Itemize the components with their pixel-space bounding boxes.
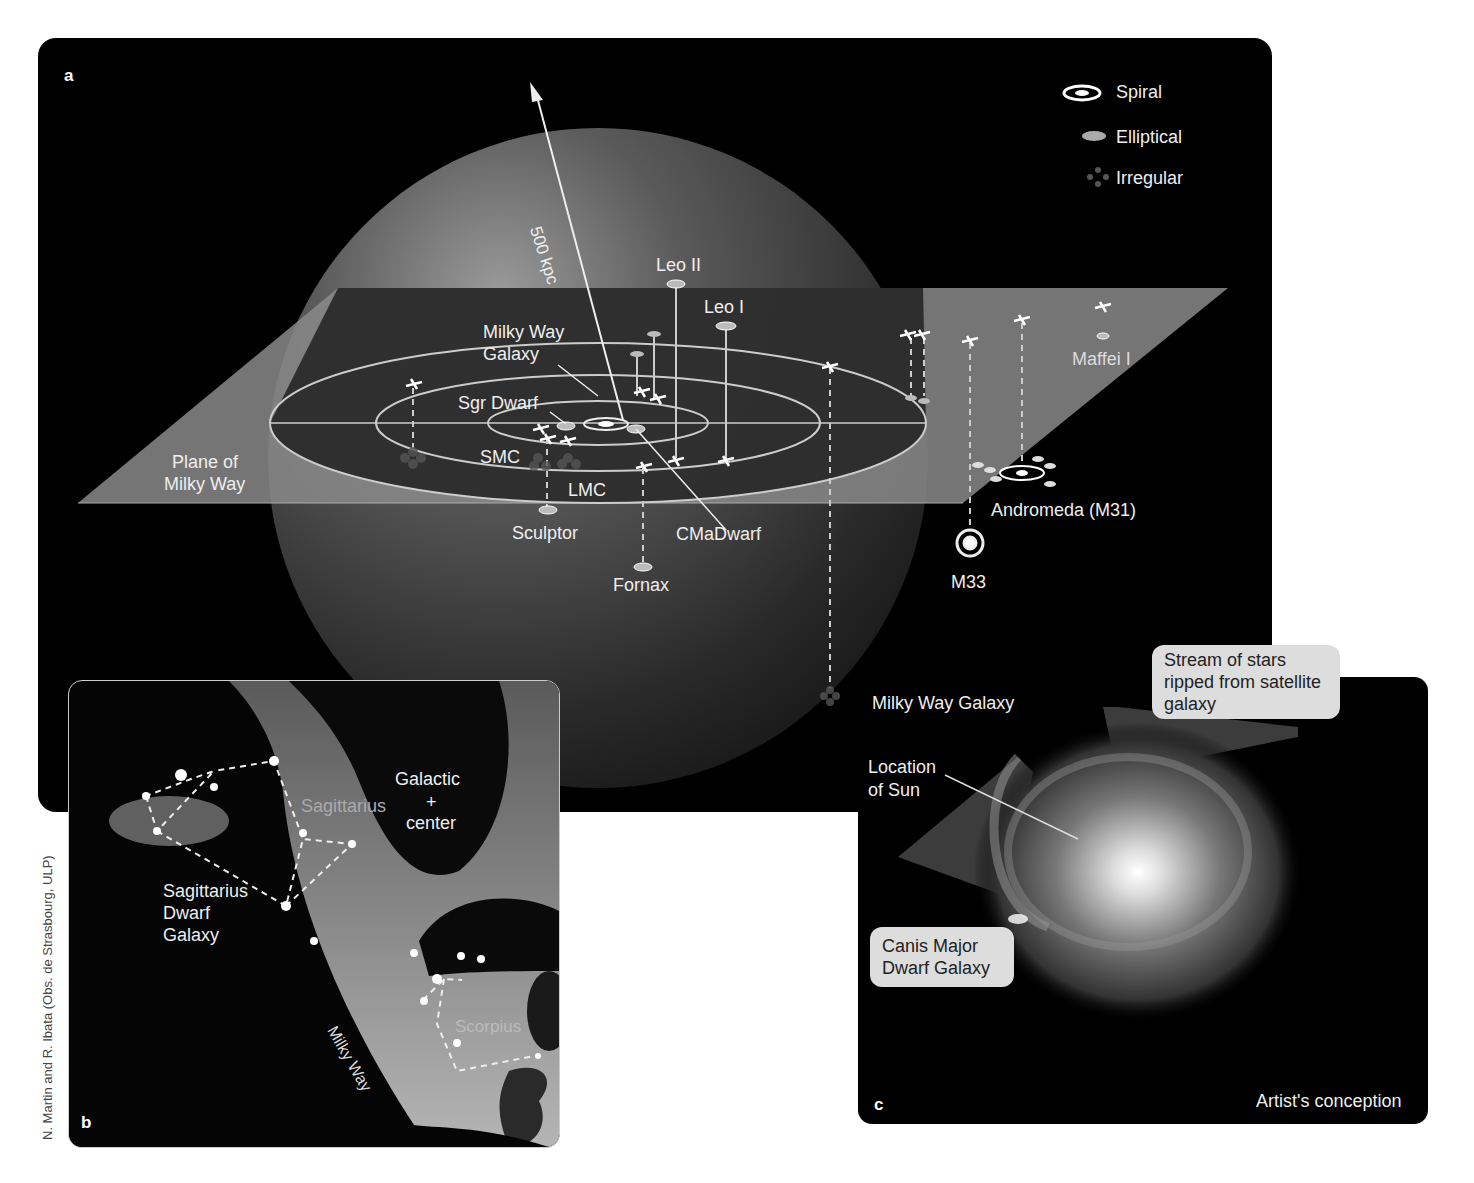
label-smc: SMC [480,447,520,468]
label-leo-i: Leo I [704,297,744,318]
label-location-of-sun-1: Location [868,757,936,778]
image-credit: N. Martin and R. Ibata (Obs. de Strasbou… [40,855,55,1140]
label-sculptor: Sculptor [512,523,578,544]
legend-spiral-label: Spiral [1116,82,1162,103]
callout-cma-line-1: Canis Major [882,935,1002,957]
callout-stream-line-2: ripped from satellite [1164,671,1328,693]
label-sgr-dwarf-2: Dwarf [163,903,210,924]
legend-irregular-label: Irregular [1116,168,1183,189]
legend-elliptical-label: Elliptical [1116,127,1182,148]
sky-illustration [69,681,559,1147]
label-scorpius: Scorpius [455,1017,521,1037]
label-galactic: Galactic [395,769,460,790]
label-milky-way-1: Milky Way [483,322,564,343]
label-lmc: LMC [568,480,606,501]
label-andromeda: Andromeda (M31) [991,500,1136,521]
callout-stream-line-3: galaxy [1164,693,1328,715]
label-galactic-plus: + [426,792,437,813]
callout-cma-line-2: Dwarf Galaxy [882,957,1002,979]
label-leo-ii: Leo II [656,255,701,276]
label-center: center [406,813,456,834]
label-m33: M33 [951,572,986,593]
panel-c-title: Milky Way Galaxy [872,693,1014,714]
plane-label-2: Milky Way [164,474,245,495]
milky-way-artist-illustration [858,677,1428,1124]
label-sgr-dwarf-1: Sagittarius [163,881,248,902]
legend-irregular-icon [1087,167,1109,187]
m33-spiral-icon [957,530,983,556]
caption-artists-conception: Artist's conception [1256,1091,1402,1112]
panel-c-artist-conception: Milky Way Galaxy Location of Sun c Artis… [858,677,1428,1124]
panel-b-sky-view: b Sagittarius Galactic + center Sagittar… [68,680,560,1148]
callout-canis-major: Canis Major Dwarf Galaxy [870,927,1014,987]
label-sagittarius: Sagittarius [301,796,386,817]
callout-stream-of-stars: Stream of stars ripped from satellite ga… [1152,645,1340,719]
legend-elliptical-icon [1082,131,1106,141]
panel-b-letter: b [81,1113,91,1133]
plane-label-1: Plane of [172,452,238,473]
label-fornax: Fornax [613,575,669,596]
label-cma-dwarf: CMaDwarf [676,524,761,545]
callout-stream-line-1: Stream of stars [1164,649,1328,671]
label-sgr-dwarf: Sgr Dwarf [458,393,538,414]
legend-spiral-icon [1064,86,1100,100]
label-location-of-sun-2: of Sun [868,780,920,801]
panel-a-letter: a [64,66,73,86]
label-maffei: Maffei I [1072,349,1131,370]
panel-c-letter: c [874,1095,883,1115]
label-milky-way-2: Galaxy [483,344,539,365]
label-sgr-dwarf-3: Galaxy [163,925,219,946]
